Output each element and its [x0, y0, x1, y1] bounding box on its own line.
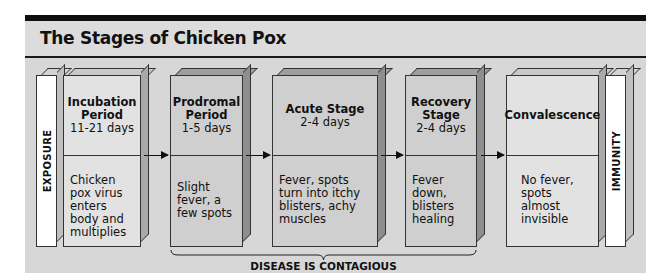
- stage-recovery: Recovery Stage 2-4 days Fever down, blis…: [405, 75, 477, 247]
- immunity-label: IMMUNITY: [610, 131, 621, 191]
- contagious-label: DISEASE IS CONTAGIOUS: [170, 260, 477, 272]
- stage-duration: 2-4 days: [300, 116, 350, 129]
- arrow-right-icon: [381, 155, 403, 156]
- divider: [171, 155, 242, 156]
- exposure-marker: EXPOSURE: [36, 75, 57, 247]
- divider: [64, 155, 140, 156]
- stage-header: Recovery Stage 2-4 days: [406, 76, 476, 155]
- divider: [507, 155, 598, 156]
- stage-acute: Acute Stage 2-4 days Fever, spots turn i…: [272, 75, 378, 247]
- stage-header: Prodromal Period 1-5 days: [171, 76, 242, 155]
- stage-duration: 2-4 days: [416, 122, 466, 135]
- stage-duration: 1-5 days: [182, 122, 232, 135]
- arrow-right-icon: [144, 155, 168, 156]
- stage-prodromal: Prodromal Period 1-5 days Slight fever, …: [170, 75, 243, 247]
- stage-description: Fever down, blisters healing: [412, 174, 472, 226]
- exposure-label: EXPOSURE: [41, 130, 52, 193]
- stage-header: Incubation Period 11-21 days: [64, 76, 140, 155]
- arrow-right-icon: [481, 155, 504, 156]
- diagram-title: The Stages of Chicken Pox: [40, 28, 286, 48]
- stage-name: Acute Stage: [286, 103, 365, 116]
- arrow-right-icon: [246, 155, 270, 156]
- stage-name: Convalescence: [505, 109, 601, 122]
- immunity-marker: IMMUNITY: [605, 75, 626, 247]
- stage-description: Fever, spots turn into itchy blisters, a…: [279, 174, 373, 226]
- divider: [273, 155, 377, 156]
- stage-description: Chicken pox virus enters body and multip…: [70, 174, 136, 239]
- stage-convalescence: Convalescence No fever, spots almost inv…: [506, 75, 599, 247]
- stage-incubation: Incubation Period 11-21 days Chicken pox…: [63, 75, 141, 247]
- stage-header: Acute Stage 2-4 days: [273, 76, 377, 155]
- stage-duration: 11-21 days: [70, 122, 134, 135]
- divider: [406, 155, 476, 156]
- stage-description: No fever, spots almost invisible: [521, 174, 594, 226]
- stage-description: Slight fever, a few spots: [177, 181, 238, 220]
- title-band: The Stages of Chicken Pox: [25, 21, 646, 58]
- stage-header: Convalescence: [507, 76, 598, 155]
